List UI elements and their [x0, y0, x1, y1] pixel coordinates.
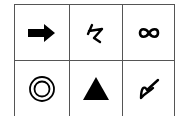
handwritten-glyph-icon — [85, 22, 107, 44]
grid-cell — [70, 5, 122, 60]
scribble-glyph-icon — [138, 78, 160, 100]
right-arrow-icon — [28, 24, 56, 42]
grid-cell — [123, 5, 175, 60]
grid-cell — [123, 61, 175, 116]
symbol-grid — [14, 4, 175, 116]
filled-triangle-icon — [83, 77, 109, 101]
grid-cell — [15, 5, 69, 60]
infinity-icon — [137, 26, 161, 40]
double-circle-icon — [28, 75, 56, 103]
grid-cell — [70, 61, 122, 116]
grid-cell — [15, 61, 69, 116]
